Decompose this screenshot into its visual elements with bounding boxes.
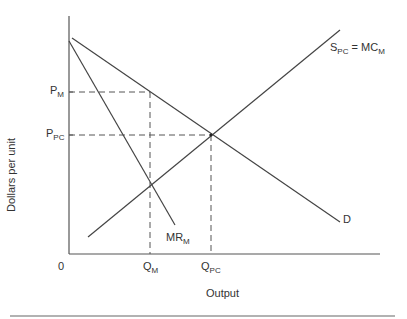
demand-label: D: [343, 214, 351, 225]
competitive-equilibrium-point: [210, 134, 213, 137]
x-axis-label: Output: [206, 288, 239, 299]
ppc-label: PPC: [46, 128, 64, 139]
s-label-sub: PC: [337, 47, 348, 56]
marginal-revenue-curve: [69, 41, 175, 225]
pm-label: PM: [50, 85, 64, 96]
supply-mc-label: SPC = MCM: [330, 42, 385, 53]
mr-label: MRM: [166, 232, 190, 243]
qm-label-sub: M: [152, 266, 159, 275]
mr-label-sub: M: [183, 237, 190, 246]
qm-label-main: Q: [143, 260, 152, 272]
s-label-eq: = MC: [348, 41, 378, 53]
mr-label-main: MR: [166, 231, 183, 243]
qm-label: QM: [143, 261, 158, 272]
pm-label-sub: M: [57, 90, 64, 99]
supply-mc-curve: [88, 30, 340, 237]
ppc-label-sub: PC: [53, 133, 64, 142]
origin-label: 0: [58, 261, 64, 272]
qpc-label-sub: PC: [210, 266, 221, 275]
qpc-label-main: Q: [201, 260, 210, 272]
s-label-eqsub: M: [378, 47, 385, 56]
qpc-label: QPC: [201, 261, 221, 272]
y-axis-label: Dollars per unit: [5, 138, 17, 212]
demand-curve: [72, 38, 340, 222]
